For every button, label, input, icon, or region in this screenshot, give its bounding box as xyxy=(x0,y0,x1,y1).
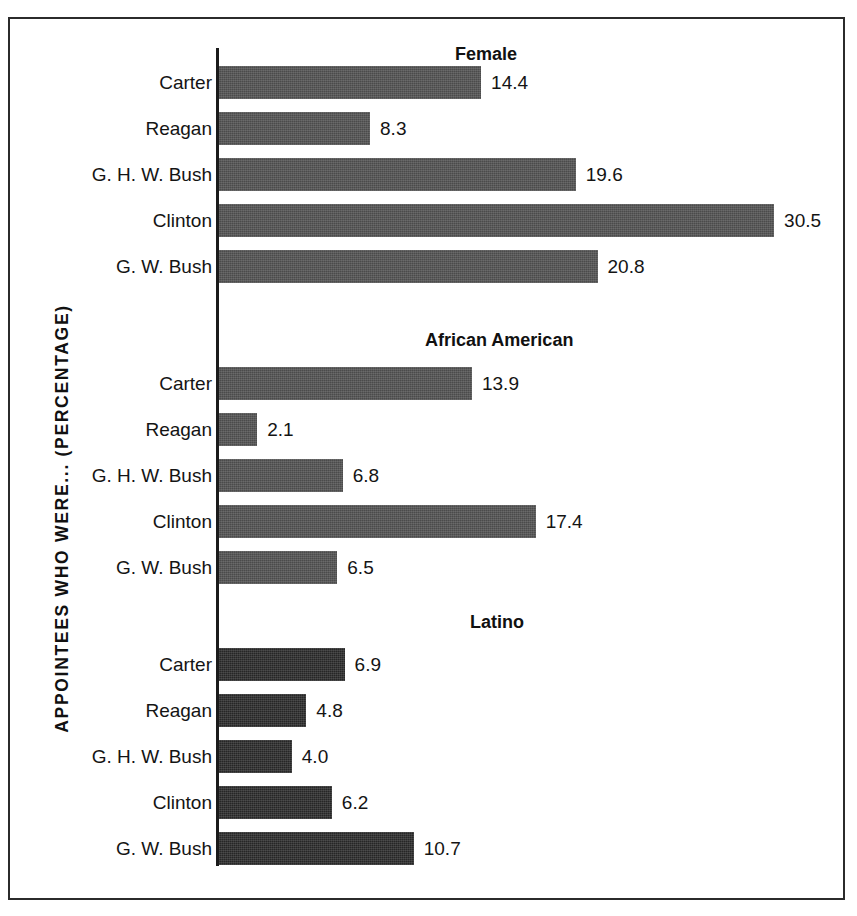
bar-value-label: 14.4 xyxy=(491,66,528,99)
chart-figure: APPOINTEES WHO WERE... (PERCENTAGE) Fema… xyxy=(0,0,857,916)
bar xyxy=(219,505,536,538)
bar xyxy=(219,250,598,283)
bar-row: G. H. W. Bush6.8 xyxy=(0,459,857,492)
bar-value-label: 4.8 xyxy=(316,694,342,727)
bar-category-label: Reagan xyxy=(0,112,212,145)
bar-row: G. W. Bush20.8 xyxy=(0,250,857,283)
bar-category-label: G. H. W. Bush xyxy=(0,740,212,773)
bar-row: Reagan4.8 xyxy=(0,694,857,727)
bar-category-label: Clinton xyxy=(0,204,212,237)
panel-title: Female xyxy=(455,44,517,65)
bar-category-label: Clinton xyxy=(0,505,212,538)
bar-value-label: 30.5 xyxy=(784,204,821,237)
bar-row: Carter14.4 xyxy=(0,66,857,99)
bar-category-label: Carter xyxy=(0,66,212,99)
bar-value-label: 6.2 xyxy=(342,786,368,819)
bar-row: Reagan2.1 xyxy=(0,413,857,446)
bar-category-label: Reagan xyxy=(0,694,212,727)
bar-row: Clinton17.4 xyxy=(0,505,857,538)
bar-row: Carter6.9 xyxy=(0,648,857,681)
bar-row: Carter13.9 xyxy=(0,367,857,400)
bar-value-label: 4.0 xyxy=(302,740,328,773)
bar-value-label: 6.9 xyxy=(355,648,381,681)
bar xyxy=(219,551,337,584)
bar-category-label: Clinton xyxy=(0,786,212,819)
bar-category-label: Carter xyxy=(0,367,212,400)
bar-value-label: 19.6 xyxy=(586,158,623,191)
bar-category-label: G. H. W. Bush xyxy=(0,459,212,492)
bar-category-label: G. W. Bush xyxy=(0,551,212,584)
panel-title: Latino xyxy=(470,612,524,633)
bar xyxy=(219,832,414,865)
bar-value-label: 8.3 xyxy=(380,112,406,145)
bar-category-label: G. W. Bush xyxy=(0,832,212,865)
bar xyxy=(219,112,370,145)
panel-title: African American xyxy=(425,330,573,351)
bar-row: Reagan8.3 xyxy=(0,112,857,145)
bar xyxy=(219,158,576,191)
bar-row: G. W. Bush6.5 xyxy=(0,551,857,584)
bar xyxy=(219,413,257,446)
bar-row: G. H. W. Bush4.0 xyxy=(0,740,857,773)
bar xyxy=(219,367,472,400)
bar-value-label: 2.1 xyxy=(267,413,293,446)
bar-category-label: Carter xyxy=(0,648,212,681)
bar xyxy=(219,66,481,99)
bar-value-label: 6.8 xyxy=(353,459,379,492)
bar-row: Clinton6.2 xyxy=(0,786,857,819)
bar-row: G. W. Bush10.7 xyxy=(0,832,857,865)
bar xyxy=(219,694,306,727)
bar xyxy=(219,786,332,819)
bar xyxy=(219,740,292,773)
bar xyxy=(219,204,774,237)
bar-category-label: G. W. Bush xyxy=(0,250,212,283)
bar-value-label: 10.7 xyxy=(424,832,461,865)
bar xyxy=(219,648,345,681)
bar-value-label: 13.9 xyxy=(482,367,519,400)
bar-category-label: Reagan xyxy=(0,413,212,446)
bar-row: G. H. W. Bush19.6 xyxy=(0,158,857,191)
bar-value-label: 20.8 xyxy=(608,250,645,283)
bar-row: Clinton30.5 xyxy=(0,204,857,237)
bar-category-label: G. H. W. Bush xyxy=(0,158,212,191)
bar xyxy=(219,459,343,492)
bar-value-label: 17.4 xyxy=(546,505,583,538)
bar-value-label: 6.5 xyxy=(347,551,373,584)
